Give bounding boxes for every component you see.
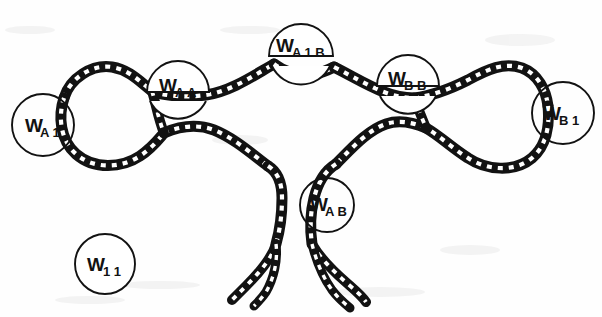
node-w-a1-sub: A 1 [40,125,60,140]
node-w-bb[interactable]: W B B [377,55,439,114]
node-w-a1b[interactable]: W A 1 B [269,24,333,84]
node-w-11-sub: 1 1 [103,264,121,279]
node-w-11[interactable]: W 1 1 [75,234,135,294]
chain-lower-right-arc [336,122,426,164]
node-w-aa-sub: A A [175,85,197,100]
chain-lower-left-arc [164,126,268,166]
chain-right-outer-loop-lower [426,106,548,168]
chain-descender-left [268,166,282,244]
node-w-bb-sub: B B [404,78,426,93]
node-w-b1-sub: B 1 [559,113,579,128]
chain-fork-left [232,244,277,306]
chain-diagram-canvas: W A 1 W A A W A 1 B W B B W B 1 [0,0,602,317]
node-w-aa[interactable]: W A A [147,61,209,119]
node-w-a1b-circle-lower [272,66,330,84]
node-w-ab[interactable]: W A B [300,178,354,232]
node-w-b1[interactable]: W B 1 [532,82,594,144]
node-w-ab-sub: A B [325,204,347,219]
node-w-bb-circle-lower [380,96,436,114]
chain-fork-right [312,244,366,308]
chain-diagram-figure: W A 1 W A A W A 1 B W B B W B 1 [0,0,602,317]
node-w-a1[interactable]: W A 1 [12,94,74,156]
node-w-a1b-sub: A 1 B [292,45,325,60]
